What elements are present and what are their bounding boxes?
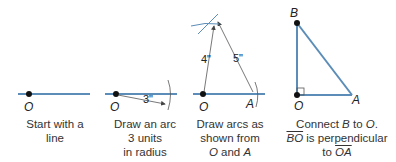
step1-caption: Start with aline (10, 117, 100, 145)
svg-text:O: O (199, 100, 208, 114)
step3-figure: O A 4" 5" (191, 14, 265, 114)
step3-caption: Draw arcs asshown from O and A (185, 117, 275, 159)
step4-figure: B O A (290, 6, 360, 113)
svg-text:O: O (110, 100, 119, 114)
svg-text:A: A (351, 93, 360, 107)
measure-4: 4" (201, 53, 211, 65)
step1-figure: O (18, 91, 90, 114)
measure-3: 3" (143, 93, 153, 105)
point-o-label: O (24, 100, 33, 114)
step2-caption: Draw an arc3 unitsin radius (95, 117, 195, 159)
svg-text:O: O (294, 99, 303, 113)
step2-figure: O 3" (105, 80, 177, 114)
svg-text:B: B (290, 6, 298, 20)
svg-text:A: A (245, 97, 254, 111)
step4-caption: Connect B to O. BO is perpendicular to O… (278, 117, 396, 159)
measure-5: 5" (233, 52, 243, 64)
